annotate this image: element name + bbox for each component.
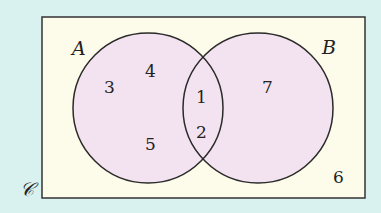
intersection-value: 2	[196, 122, 207, 142]
a-only-value: 5	[145, 134, 156, 154]
a-only-value: 3	[104, 77, 115, 97]
b-only-value: 7	[262, 77, 273, 97]
universal-set-label: 𝒞	[20, 178, 39, 200]
intersection-value: 1	[196, 87, 207, 107]
a-only-value: 4	[145, 61, 156, 81]
set-a-label: A	[70, 37, 86, 59]
outside-value: 6	[333, 167, 344, 187]
venn-diagram: A B 𝒞 3 4 5 1 2 7 6	[0, 0, 381, 213]
set-b-fill	[183, 33, 333, 183]
set-b-label: B	[321, 36, 336, 58]
